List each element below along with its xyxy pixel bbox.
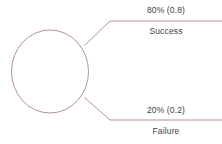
failure-probability-label: 20% (0.2)	[110, 105, 222, 115]
success-outcome-label: Success	[110, 26, 222, 36]
chance-node-circle[interactable]	[12, 30, 89, 113]
failure-outcome-label: Failure	[110, 126, 222, 136]
success-probability-label: 80% (0.8)	[110, 5, 222, 15]
probability-tree-graphic	[0, 0, 222, 144]
diagram-canvas: 80% (0.8) Success 20% (0.2) Failure	[0, 0, 222, 144]
